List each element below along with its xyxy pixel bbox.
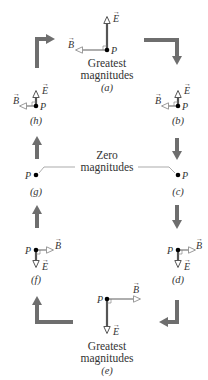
panel-label-g: (g) — [30, 186, 43, 198]
point-p-dot-f — [34, 248, 39, 253]
panel-f: P B → E → (f) — [24, 235, 62, 286]
point-p-label-c: P — [181, 170, 188, 181]
point-p-dot-c — [176, 173, 181, 178]
point-p-label-f: P — [24, 245, 31, 256]
vector-arrow-glyph-b-f: → — [55, 235, 62, 243]
panel-a: P E → B → Greatest magnitudes (a) — [68, 8, 134, 94]
caption-greatest-line1-e: Greatest — [88, 340, 127, 352]
vector-arrow-glyph-e-f: → — [42, 256, 49, 264]
cycle-arrow-h-to-a-icon — [37, 39, 48, 68]
caption-zero-line2: magnitudes — [80, 161, 134, 174]
point-p-label-b: P — [181, 101, 188, 112]
cycle-arrow-d-to-e-icon — [166, 300, 177, 322]
vector-arrow-glyph-e-a: → — [113, 8, 120, 16]
vector-arrow-glyph-b-d: → — [196, 235, 203, 243]
vector-arrow-glyph-e-d: → — [184, 256, 191, 264]
cycle-arrow-e-to-f-icon — [37, 303, 73, 322]
point-p-label-e: P — [96, 294, 103, 305]
panel-d: P B → E → (d) — [166, 235, 203, 286]
point-p-dot-h — [34, 104, 39, 109]
vector-arrow-glyph-b-a: → — [68, 34, 75, 42]
point-p-label-a: P — [110, 45, 117, 56]
leader-line-left — [39, 167, 75, 173]
point-p-dot-e — [105, 297, 110, 302]
em-wave-cycle-diagram: P E → B → Greatest magnitudes (a) P E → … — [0, 0, 208, 380]
panel-label-c: (c) — [172, 186, 184, 198]
vector-arrow-glyph-e-e: → — [113, 321, 120, 329]
vector-arrow-glyph-b-e: → — [133, 279, 140, 287]
point-p-label-h: P — [39, 101, 46, 112]
caption-greatest-line2-a: magnitudes — [80, 69, 134, 82]
panel-label-e: (e) — [101, 365, 113, 377]
panel-e: P B → E → Greatest magnitudes (e) — [80, 279, 140, 377]
point-p-dot-d — [176, 248, 181, 253]
vector-arrow-glyph-e-b: → — [184, 80, 191, 88]
panel-label-a: (a) — [101, 82, 114, 94]
panel-label-d: (d) — [172, 274, 185, 286]
zero-magnitudes-callout: Zero magnitudes — [39, 149, 175, 174]
panel-g: P (g) — [24, 170, 43, 198]
vector-arrow-glyph-b-b: → — [155, 90, 162, 98]
vector-arrow-glyph-b-h: → — [13, 90, 20, 98]
leader-line-right — [138, 167, 175, 173]
point-p-dot-g — [34, 173, 39, 178]
panel-c: P (c) — [172, 170, 188, 198]
panel-label-h: (h) — [30, 115, 43, 127]
vector-arrow-glyph-e-h: → — [42, 80, 49, 88]
point-p-label-g: P — [24, 170, 31, 181]
panel-label-b: (b) — [172, 115, 185, 127]
point-p-dot-b — [176, 104, 181, 109]
point-p-dot-a — [105, 48, 110, 53]
caption-greatest-line1-a: Greatest — [88, 57, 127, 69]
panel-label-f: (f) — [31, 274, 41, 286]
panel-h: P E → B → (h) — [13, 80, 49, 127]
caption-greatest-line2-e: magnitudes — [80, 352, 134, 365]
panel-b: P E → B → (b) — [155, 80, 191, 127]
caption-zero-line1: Zero — [96, 149, 118, 161]
cycle-arrow-a-to-b-icon — [144, 40, 177, 58]
point-p-label-d: P — [166, 245, 173, 256]
